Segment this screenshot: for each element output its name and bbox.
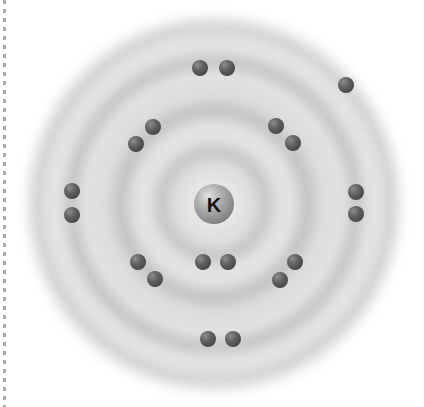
electron xyxy=(348,184,364,200)
nucleus: K xyxy=(194,184,234,224)
electron xyxy=(348,206,364,222)
electron xyxy=(192,60,208,76)
electron xyxy=(200,331,216,347)
electron xyxy=(128,136,144,152)
electron xyxy=(145,119,161,135)
nucleus-symbol-label: K xyxy=(207,194,222,216)
atom-diagram: K xyxy=(0,0,424,407)
electron xyxy=(147,271,163,287)
electron xyxy=(285,135,301,151)
electron xyxy=(195,254,211,270)
electron xyxy=(130,254,146,270)
bohr-model-figure: K xyxy=(0,0,424,407)
electron xyxy=(219,60,235,76)
electron xyxy=(287,254,303,270)
electron xyxy=(272,272,288,288)
shell-4-electrons xyxy=(338,77,354,93)
electron xyxy=(220,254,236,270)
electron xyxy=(225,331,241,347)
electron-valence xyxy=(338,77,354,93)
electron xyxy=(64,183,80,199)
electron xyxy=(64,207,80,223)
electron xyxy=(268,118,284,134)
